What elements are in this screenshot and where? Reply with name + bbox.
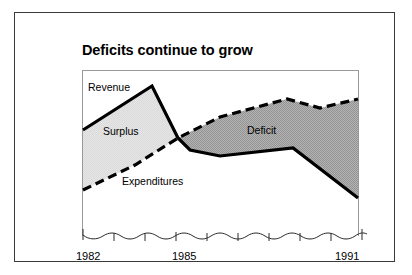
plot-area xyxy=(82,70,359,236)
chart-label-surplus: Surplus xyxy=(103,125,139,137)
chart-plot-svg xyxy=(82,70,359,236)
chart-outer-frame: Deficits continue to grow xyxy=(14,12,395,262)
x-axis-tick-label-1991: 1991 xyxy=(335,250,359,262)
figure-canvas: Deficits continue to grow xyxy=(0,0,412,275)
chart-region-deficit xyxy=(178,99,358,198)
x-axis-tick-label-1982: 1982 xyxy=(76,250,100,262)
page-title: Deficits continue to grow xyxy=(82,42,253,58)
chart-label-deficit: Deficit xyxy=(247,124,276,136)
chart-label-expenditures: Expenditures xyxy=(122,175,183,187)
x-axis-tick-label-1985: 1985 xyxy=(172,250,196,262)
chart-label-revenue: Revenue xyxy=(88,81,130,93)
chart-x-axis xyxy=(75,229,375,249)
x-axis-wavy-line xyxy=(83,233,367,239)
